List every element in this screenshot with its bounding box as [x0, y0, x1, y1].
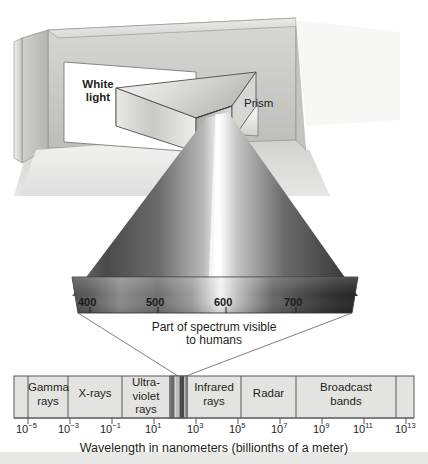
tick-exp: −3 [70, 421, 79, 430]
em-band-ultraviolet-rays: Ultra- violet rays [122, 376, 170, 417]
tick-base: 10 [58, 423, 70, 435]
visible-spectrum-caption: Part of spectrum visible to humans [114, 321, 314, 348]
tick-exp: 7 [283, 421, 287, 430]
tick-exp: 1 [157, 421, 161, 430]
em-band-radar: Radar [241, 387, 296, 401]
axis-tick-2: 10−3 [58, 423, 79, 435]
wavelength-tick-600: 600 [214, 296, 232, 308]
tick-exp: −1 [112, 421, 121, 430]
axis-tick-7: 107 [271, 423, 287, 435]
tick-exp: 5 [241, 421, 245, 430]
em-band-x-rays: X-rays [68, 387, 122, 401]
axis-tick-10: 1013 [395, 423, 416, 435]
wavelength-tick-500: 500 [146, 296, 164, 308]
axis-tick-6: 105 [229, 423, 245, 435]
axis-tick-5: 103 [187, 423, 203, 435]
wavelength-tick-400: 400 [78, 296, 96, 308]
em-band-broadcast-bands: Broadcast bands [296, 381, 396, 408]
axis-tick-9: 1011 [353, 423, 373, 435]
em-band-infrared-rays: Infrared rays [187, 381, 241, 408]
tick-exp: 13 [407, 421, 415, 430]
light-spectrum-figure: White light Prism Part of spectrum visib… [0, 0, 428, 464]
white-light-label: White light [70, 78, 126, 104]
axis-tick-3: 10−1 [100, 423, 121, 435]
tick-base: 10 [229, 423, 241, 435]
tick-base: 10 [353, 423, 365, 435]
tick-base: 10 [395, 423, 407, 435]
axis-title: Wavelength in nanometers (billionths of … [14, 441, 414, 455]
tick-exp: 3 [199, 421, 203, 430]
tick-base: 10 [145, 423, 157, 435]
tick-base: 10 [271, 423, 283, 435]
tick-base: 10 [16, 423, 28, 435]
prism-label: Prism [244, 97, 273, 110]
axis-tick-8: 109 [313, 423, 329, 435]
axis-tick-4: 101 [145, 423, 161, 435]
wavelength-tick-700: 700 [284, 296, 302, 308]
tick-base: 10 [100, 423, 112, 435]
axis-tick-1: 10−5 [16, 423, 37, 435]
tick-base: 10 [313, 423, 325, 435]
tick-exp: 9 [325, 421, 329, 430]
tick-base: 10 [187, 423, 199, 435]
em-band-gamma-rays: Gamma rays [28, 381, 68, 408]
tick-exp: 11 [365, 421, 373, 430]
tick-exp: −5 [28, 421, 37, 430]
